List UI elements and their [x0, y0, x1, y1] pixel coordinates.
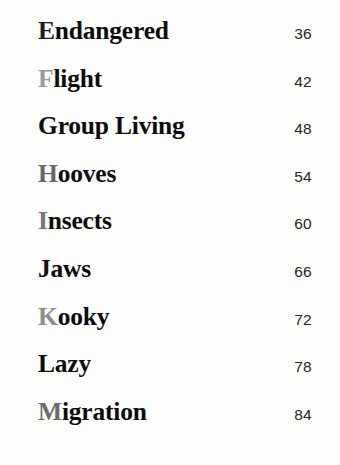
toc-entry-initial: L — [38, 349, 55, 378]
toc-entry-title-rest: igration — [62, 397, 147, 426]
toc-entry-page-number: 66 — [278, 264, 312, 280]
toc-entry-title: Migration — [38, 399, 278, 425]
toc-entry[interactable]: Hooves54 — [0, 161, 340, 209]
toc-entry-title: Hooves — [38, 161, 278, 187]
toc-entry-initial: G — [38, 111, 58, 140]
toc-entry-title-rest: ooves — [58, 159, 117, 188]
toc-entry-title-rest: azy — [55, 349, 91, 378]
toc-entry-page-number: 48 — [278, 121, 312, 137]
toc-entry-initial: K — [38, 302, 58, 331]
toc-entry-title: Flight — [38, 66, 278, 92]
toc-entry[interactable]: Lazy78 — [0, 351, 340, 399]
toc-entry[interactable]: Insects60 — [0, 208, 340, 256]
toc-entry-initial: J — [38, 254, 51, 283]
toc-entry-title: Group Living — [38, 113, 278, 139]
toc-entry-title-rest: light — [53, 64, 102, 93]
toc-entry-page-number: 42 — [278, 74, 312, 90]
toc-entry-page-number: 78 — [278, 359, 312, 375]
table-of-contents-page: Endangered36Flight42Group Living48Hooves… — [0, 0, 340, 465]
toc-entry-initial: M — [38, 397, 62, 426]
toc-entry[interactable]: Endangered36 — [0, 18, 340, 66]
toc-entry-initial: I — [38, 206, 48, 235]
toc-entry-initial: F — [38, 64, 53, 93]
toc-entry-title-rest: nsects — [48, 206, 112, 235]
toc-entry-initial: E — [38, 16, 55, 45]
toc-entry-title-rest: ndangered — [55, 16, 169, 45]
toc-entry[interactable]: Migration84 — [0, 399, 340, 447]
toc-entry-initial: H — [38, 159, 58, 188]
toc-entry-page-number: 60 — [278, 216, 312, 232]
toc-entry[interactable]: Kooky72 — [0, 304, 340, 352]
toc-entry-title-rest: ooky — [58, 302, 110, 331]
toc-entry[interactable]: Jaws66 — [0, 256, 340, 304]
toc-entry-title-rest: roup Living — [58, 111, 185, 140]
toc-entry-title-rest: aws — [51, 254, 92, 283]
toc-entry-title: Endangered — [38, 18, 278, 44]
toc-entry-title: Jaws — [38, 256, 278, 282]
toc-entry[interactable]: Group Living48 — [0, 113, 340, 161]
toc-entry-title: Insects — [38, 208, 278, 234]
toc-entry-page-number: 84 — [278, 407, 312, 423]
table-of-contents-list: Endangered36Flight42Group Living48Hooves… — [0, 18, 340, 446]
toc-entry-page-number: 54 — [278, 169, 312, 185]
toc-entry-page-number: 72 — [278, 312, 312, 328]
toc-entry-title: Lazy — [38, 351, 278, 377]
toc-entry-page-number: 36 — [278, 26, 312, 42]
toc-entry-title: Kooky — [38, 304, 278, 330]
toc-entry[interactable]: Flight42 — [0, 66, 340, 114]
